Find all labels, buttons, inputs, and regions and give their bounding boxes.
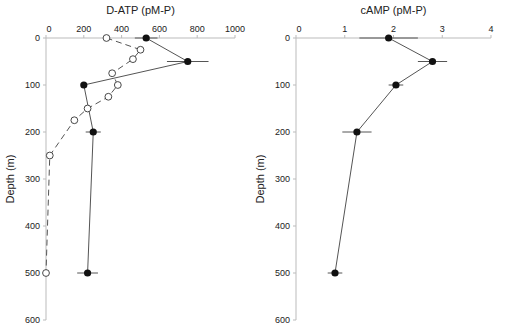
y-tick-label: 400 [25, 221, 40, 231]
filled-circle-marker [80, 81, 87, 88]
x-tick-label: 200 [76, 24, 91, 34]
x-tick-label: 800 [190, 24, 205, 34]
open-circle-marker [103, 35, 110, 42]
filled-circle-marker [143, 34, 150, 41]
d-atp-depth-chart: D-ATP (pM-P)0200400600800100001002003004… [0, 0, 250, 334]
y-tick-label: 200 [275, 127, 290, 137]
y-tick-label: 500 [25, 268, 40, 278]
y-tick-label: 400 [275, 221, 290, 231]
x-tick-label: 4 [488, 24, 493, 34]
open-circle-marker [114, 82, 121, 89]
filled-series-line [335, 38, 433, 273]
camp-plot: cAMP (pM-P)012340100200300400500600Depth… [250, 0, 506, 334]
filled-circle-marker [429, 58, 436, 65]
filled-series-line [84, 38, 188, 273]
y-axis-label: Depth (m) [4, 155, 16, 204]
x-tick-label: 1 [342, 24, 347, 34]
open-circle-marker [46, 152, 53, 159]
d-atp-plot: D-ATP (pM-P)0200400600800100001002003004… [0, 0, 250, 334]
open-circle-marker [105, 93, 112, 100]
open-circle-marker [43, 270, 50, 277]
x-tick-label: 1000 [225, 24, 245, 34]
filled-circle-marker [90, 128, 97, 135]
open-circle-marker [137, 46, 144, 53]
x-tick-label: 2 [391, 24, 396, 34]
x-tick-label: 3 [440, 24, 445, 34]
y-tick-label: 600 [275, 315, 290, 325]
filled-circle-marker [353, 128, 360, 135]
y-tick-label: 600 [25, 315, 40, 325]
y-tick-label: 300 [25, 174, 40, 184]
camp-depth-chart: cAMP (pM-P)012340100200300400500600Depth… [250, 0, 506, 334]
filled-circle-marker [392, 81, 399, 88]
y-tick-label: 300 [275, 174, 290, 184]
filled-circle-marker [84, 269, 91, 276]
x-tick-label: 400 [114, 24, 129, 34]
open-circle-marker [109, 70, 116, 77]
y-tick-label: 0 [35, 33, 40, 43]
y-axis-label: Depth (m) [254, 155, 266, 204]
chart-title: D-ATP (pM-P) [106, 4, 175, 16]
y-tick-label: 200 [25, 127, 40, 137]
x-tick-label: 600 [152, 24, 167, 34]
y-tick-label: 0 [285, 33, 290, 43]
chart-title: cAMP (pM-P) [361, 4, 427, 16]
open-series-line [46, 38, 141, 273]
y-tick-label: 500 [275, 268, 290, 278]
filled-circle-marker [385, 34, 392, 41]
open-circle-marker [84, 105, 91, 112]
filled-circle-marker [184, 58, 191, 65]
y-tick-label: 100 [275, 80, 290, 90]
open-circle-marker [71, 117, 78, 124]
x-tick-label: 0 [296, 24, 301, 34]
filled-circle-marker [331, 269, 338, 276]
y-tick-label: 100 [25, 80, 40, 90]
open-circle-marker [130, 56, 137, 63]
x-tick-label: 0 [46, 24, 51, 34]
